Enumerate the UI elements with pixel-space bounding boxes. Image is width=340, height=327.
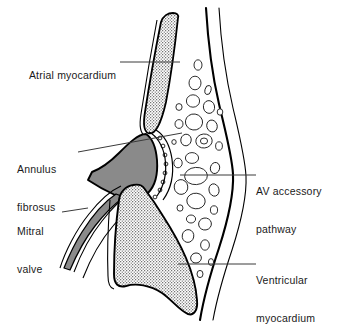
anatomy-figure: Atrial myocardium Annulus fibrosus Mitra… (0, 0, 340, 327)
leader-mitral-valve (62, 208, 88, 212)
label-ventricular-myocardium: Ventricular myocardium (256, 249, 315, 327)
label-atrial-myocardium: Atrial myocardium (17, 56, 116, 94)
label-av-accessory-pathway-line1: AV accessory (256, 185, 322, 198)
label-ventricular-myocardium-line2: myocardium (256, 312, 315, 325)
label-atrial-myocardium-line1: Atrial myocardium (29, 69, 116, 81)
label-av-accessory-pathway: AV accessory pathway (256, 160, 322, 260)
label-ventricular-myocardium-line1: Ventricular (256, 274, 315, 287)
label-annulus-fibrosus-line1: Annulus (17, 163, 56, 176)
label-mitral-valve: Mitral valve (17, 200, 44, 300)
label-mitral-valve-line2: valve (17, 263, 44, 276)
label-mitral-valve-line1: Mitral (17, 225, 44, 238)
label-av-accessory-pathway-line2: pathway (256, 223, 322, 236)
